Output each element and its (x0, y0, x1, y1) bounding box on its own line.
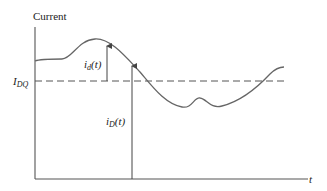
x-axis-label: t (309, 173, 313, 185)
diagram-canvas: Current t IDQ id(t) iD(t) (0, 0, 327, 191)
y-axis-label: Current (33, 10, 67, 22)
dc-level-label: IDQ (12, 75, 28, 89)
ac-component-label: id(t) (84, 58, 102, 72)
total-current-label: iD(t) (106, 115, 126, 129)
current-waveform (35, 39, 284, 107)
